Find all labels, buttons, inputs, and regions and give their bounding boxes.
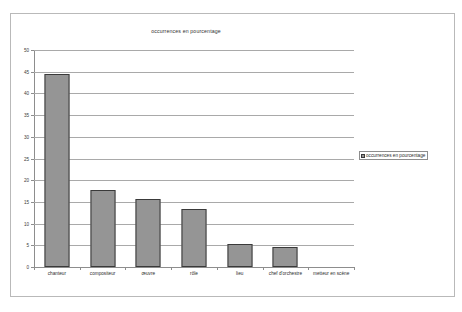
- x-axis-tick-mark: [354, 267, 355, 270]
- legend-label: occurrences en pourcentage: [366, 153, 425, 158]
- bar[interactable]: [136, 199, 161, 267]
- x-axis-category-label: compositeur: [80, 271, 126, 278]
- bar-slot: [80, 50, 126, 267]
- y-axis-tick-label: 45: [24, 69, 29, 74]
- x-axis-category-label: lieu: [217, 271, 263, 278]
- bar-slot: [34, 50, 80, 267]
- bar[interactable]: [44, 74, 69, 267]
- bar-slot: [263, 50, 309, 267]
- x-axis-category-label: metteur en scène: [308, 271, 354, 278]
- y-axis-tick-label: 20: [24, 178, 29, 183]
- bar-slot: [171, 50, 217, 267]
- x-axis-category-label: chanteur: [34, 271, 80, 278]
- bar[interactable]: [181, 209, 206, 267]
- y-axis-tick-label: 10: [24, 221, 29, 226]
- y-axis-tick-label: 0: [26, 265, 29, 270]
- x-axis-tick-mark: [217, 267, 218, 270]
- y-axis-tick-label: 35: [24, 113, 29, 118]
- chart-legend: occurrences en pourcentage: [359, 151, 428, 160]
- x-axis-tick-mark: [171, 267, 172, 270]
- x-axis-category-label: chef d'orchestre: [263, 271, 309, 278]
- bar-slot: [308, 50, 354, 267]
- x-axis-category-label: rôle: [171, 271, 217, 278]
- y-axis-tick-label: 25: [24, 156, 29, 161]
- y-axis-tick-label: 50: [24, 48, 29, 53]
- plot-area: 05101520253035404550: [34, 50, 354, 267]
- bar[interactable]: [90, 190, 115, 267]
- bars-layer: [34, 50, 354, 267]
- y-axis-tick-label: 5: [26, 243, 29, 248]
- chart-title: occurrences en pourcentage: [11, 28, 361, 34]
- bar[interactable]: [227, 244, 252, 267]
- y-axis-tick-label: 15: [24, 199, 29, 204]
- bar-slot: [217, 50, 263, 267]
- x-axis-labels: chanteurcompositeurœuvrerôlelieuchef d'o…: [34, 271, 354, 295]
- x-axis-tick-mark: [308, 267, 309, 270]
- bar[interactable]: [273, 247, 298, 267]
- x-axis-tick-mark: [125, 267, 126, 270]
- x-axis-tick-mark: [263, 267, 264, 270]
- gridline: [34, 267, 354, 268]
- x-axis-category-label: œuvre: [125, 271, 171, 278]
- x-axis-tick-mark: [80, 267, 81, 270]
- bar-slot: [125, 50, 171, 267]
- legend-swatch-icon: [361, 154, 365, 158]
- y-axis-tick-label: 40: [24, 91, 29, 96]
- y-axis-tick-label: 30: [24, 134, 29, 139]
- x-axis-tick-mark: [34, 267, 35, 270]
- chart-frame: occurrences en pourcentage 0510152025303…: [10, 13, 455, 297]
